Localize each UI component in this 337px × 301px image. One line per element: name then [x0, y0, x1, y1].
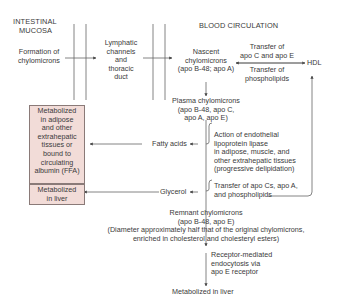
text-line: and phospholipids: [214, 191, 298, 200]
text-line: chylomicrons: [12, 57, 66, 66]
hdl-label: HDL: [307, 59, 321, 68]
text-line: albumin (FFA): [30, 167, 84, 176]
fatty-acids-label: Fatty acids: [152, 140, 187, 149]
text-line: phospholipids: [236, 75, 298, 84]
text-line: (apo B-48; apo A): [170, 65, 242, 74]
text-line: enriched in cholesterol and cholesteryl …: [96, 235, 316, 244]
transfer-phospholipids: Transfer of phospholipids: [236, 66, 298, 83]
text-line: apo E receptor: [211, 268, 272, 277]
metabolized-in-liver-final: Metabolized in liver: [172, 288, 234, 297]
header-blood-circulation: BLOOD CIRCULATION: [199, 22, 278, 31]
transfer-apo-c-e: Transfer of apo C and apo E: [236, 43, 298, 60]
receptor-mediated-endocytosis: Receptor-mediated endocytosis via apo E …: [211, 251, 272, 277]
text-line: duct: [98, 73, 144, 82]
header-line: MUCOSA: [13, 27, 57, 36]
text-line: apo A, apo E): [166, 114, 246, 123]
formation-of-chylomicrons: Formation of chylomicrons: [12, 48, 66, 65]
box-metabolized-liver: Metabolized in liver: [29, 184, 85, 205]
lymphatic-channels: Lymphatic channels and thoracic duct: [98, 39, 144, 82]
text-line: apo C and apo E: [236, 52, 298, 61]
remnant-chylomicrons: Remnant chylomicrons (apo B-48, apo E) (…: [96, 209, 316, 243]
text-line: (progressive delipidation): [214, 165, 296, 174]
nascent-chylomicrons: Nascent chylomicrons (apo B-48; apo A): [170, 48, 242, 74]
transfer-apo-cs: Transfer of apo Cs, apo A, and phospholi…: [214, 182, 298, 199]
glycerol-label: Glycerol: [160, 188, 186, 197]
lipase-action: Action of endothelial lipoprotein lipase…: [214, 131, 296, 174]
text-line: in liver: [30, 195, 84, 204]
header-intestinal-mucosa: INTESTINAL MUCOSA: [13, 18, 57, 35]
plasma-chylomicrons: Plasma chylomicrons (apo B-48, apo C, ap…: [166, 97, 246, 123]
box-metabolized-adipose: Metabolized in adipose and other extrahe…: [29, 105, 85, 184]
